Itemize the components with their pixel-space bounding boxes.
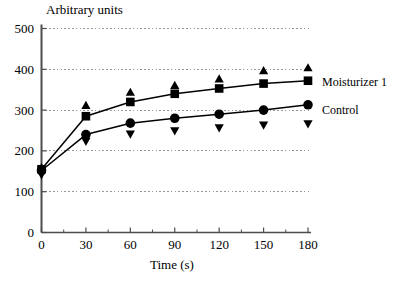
x-tick-label: 30 <box>66 238 106 251</box>
data-point-marker <box>214 109 224 119</box>
data-point-marker <box>81 138 90 146</box>
x-tick-label: 150 <box>244 238 284 251</box>
x-tick-label: 60 <box>110 238 150 251</box>
data-point-marker <box>259 66 268 74</box>
data-point-marker <box>215 74 224 82</box>
data-point-marker <box>215 84 224 93</box>
x-tick-label: 180 <box>288 238 328 251</box>
x-axis-title: Time (s) <box>150 257 194 272</box>
data-point-marker <box>215 124 224 132</box>
y-tick-label: 400 <box>0 63 34 76</box>
y-tick-label: 100 <box>0 185 34 198</box>
legend-item-moisturizer-1: Moisturizer 1 <box>322 75 387 89</box>
data-point-marker <box>303 100 313 110</box>
data-point-marker <box>126 98 135 107</box>
data-point-marker <box>170 89 179 98</box>
data-point-marker <box>303 120 312 128</box>
x-tick-label: 0 <box>22 238 62 251</box>
data-point-marker <box>170 113 180 123</box>
data-point-marker <box>126 118 136 128</box>
gridlines <box>42 29 312 192</box>
data-point-marker <box>259 122 268 130</box>
data-point-marker <box>170 81 179 89</box>
data-point-marker <box>304 76 313 85</box>
y-tick-label: 300 <box>0 104 34 117</box>
data-point-marker <box>126 130 135 138</box>
data-point-marker <box>303 63 312 71</box>
chart-figure: Arbitrary units Time (s) 010020030040050… <box>0 0 407 292</box>
x-tick-label: 90 <box>155 238 195 251</box>
legend-item-control: Control <box>322 103 359 117</box>
data-point-marker <box>37 171 46 179</box>
data-point-marker <box>126 88 135 96</box>
y-axis-title: Arbitrary units <box>46 2 123 17</box>
data-point-marker <box>259 79 268 88</box>
series-markers <box>37 63 313 179</box>
data-point-marker <box>259 105 269 115</box>
data-point-marker <box>81 101 90 109</box>
y-tick-label: 500 <box>0 22 34 35</box>
data-point-marker <box>170 127 179 135</box>
y-tick-label: 200 <box>0 144 34 157</box>
x-tick-label: 120 <box>199 238 239 251</box>
data-point-marker <box>82 112 91 121</box>
